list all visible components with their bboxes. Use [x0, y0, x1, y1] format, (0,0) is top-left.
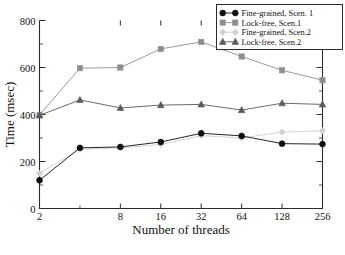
legend-label: Fine-grained, Scen.2 — [242, 28, 312, 37]
marker-triangle — [279, 100, 286, 106]
series-line — [40, 131, 323, 174]
marker-square — [233, 20, 238, 25]
legend-label: Lock-free, Scen.2 — [242, 38, 302, 47]
marker-circle — [37, 177, 43, 183]
marker-circle — [320, 141, 326, 147]
marker-square — [199, 39, 204, 44]
x-tick-label: 64 — [236, 211, 247, 222]
x-tick-label: 32 — [196, 211, 207, 222]
marker-circle — [77, 145, 83, 151]
series-1 — [37, 130, 326, 183]
y-axis-title: Time (msec) — [2, 82, 17, 148]
marker-circle — [158, 139, 164, 145]
marker-square — [220, 20, 225, 25]
marker-square — [118, 65, 123, 70]
marker-square — [77, 66, 82, 71]
chart-canvas: 020040060080028163264128256Number of thr… — [0, 0, 345, 255]
chart-figure: 020040060080028163264128256Number of thr… — [0, 0, 345, 255]
marker-diamond — [36, 170, 42, 176]
marker-triangle — [77, 96, 84, 102]
marker-diamond — [319, 127, 325, 133]
x-tick-label: 256 — [315, 211, 331, 222]
marker-circle — [117, 144, 123, 150]
marker-circle — [232, 10, 238, 16]
x-tick-label: 16 — [156, 211, 167, 222]
series-3 — [36, 127, 325, 176]
marker-square — [158, 46, 163, 51]
y-tick-label: 200 — [20, 157, 36, 168]
y-tick-label: 600 — [20, 63, 36, 74]
marker-circle — [239, 133, 245, 139]
y-tick-label: 400 — [20, 110, 36, 121]
marker-square — [279, 68, 284, 73]
marker-square — [239, 54, 244, 59]
x-tick-label: 2 — [37, 211, 42, 222]
legend: Fine-grained, Scen. 1Lock-free, Scen.1Fi… — [217, 5, 343, 50]
x-axis-title: Number of threads — [132, 222, 229, 237]
marker-circle — [220, 10, 226, 16]
marker-circle — [198, 130, 204, 136]
y-tick-label: 800 — [20, 16, 36, 27]
marker-triangle — [198, 101, 205, 107]
marker-square — [320, 78, 325, 83]
marker-diamond — [279, 129, 285, 135]
legend-label: Fine-grained, Scen. 1 — [242, 9, 314, 18]
y-tick-label: 0 — [30, 204, 35, 215]
series-4 — [36, 96, 326, 118]
legend-label: Lock-free, Scen.1 — [242, 19, 302, 28]
marker-circle — [279, 141, 285, 147]
x-tick-label: 8 — [118, 211, 123, 222]
x-tick-label: 128 — [274, 211, 290, 222]
